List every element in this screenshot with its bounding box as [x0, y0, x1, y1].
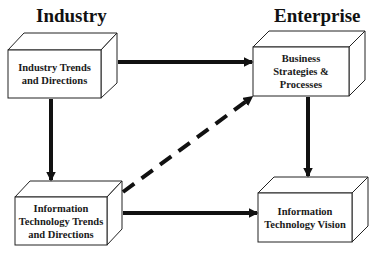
label-line: Processes [273, 78, 329, 91]
diagram-canvas: Industry Enterprise Industry Trends and … [0, 0, 378, 255]
heading-enterprise: Enterprise [274, 5, 361, 27]
label-industry-trends: Industry Trends and Directions [8, 50, 101, 98]
label-business-strategies: Business Strategies & Processes [253, 47, 349, 96]
label-line: and Directions [19, 228, 104, 241]
label-line: Strategies & [273, 65, 329, 78]
label-line: Technology Trends [19, 215, 104, 228]
label-line: Business [273, 52, 329, 65]
label-it-vision: Information Technology Vision [258, 193, 352, 242]
dashed-arrow-it-trends-to-business [123, 97, 252, 192]
label-line: and Directions [18, 74, 91, 87]
label-line: Technology Vision [264, 218, 346, 231]
label-it-trends: Information Technology Trends and Direct… [15, 197, 107, 245]
label-line: Industry Trends [18, 61, 91, 74]
label-line: Information [19, 202, 104, 215]
label-line: Information [264, 205, 346, 218]
heading-industry: Industry [36, 5, 107, 27]
